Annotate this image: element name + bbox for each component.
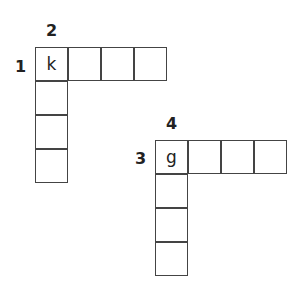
cell-4-down-2[interactable]: [155, 174, 188, 208]
clue-number-4-down: 4: [166, 114, 177, 133]
cell-3-across-3[interactable]: [221, 140, 254, 174]
cell-1-across-3[interactable]: [101, 47, 134, 81]
cell-1-across-1[interactable]: k: [35, 47, 68, 81]
cell-4-down-3[interactable]: [155, 208, 188, 242]
clue-number-3-across: 3: [135, 149, 146, 168]
cell-2-down-4[interactable]: [35, 149, 68, 183]
clue-number-1-across: 1: [15, 57, 26, 76]
cell-3-across-2[interactable]: [188, 140, 221, 174]
cell-3-across-1[interactable]: g: [155, 140, 188, 174]
cell-3-across-4[interactable]: [254, 140, 287, 174]
cell-4-down-4[interactable]: [155, 242, 188, 276]
cell-1-across-4[interactable]: [134, 47, 167, 81]
cell-1-across-2[interactable]: [68, 47, 101, 81]
clue-number-2-down: 2: [46, 21, 57, 40]
cell-2-down-2[interactable]: [35, 81, 68, 115]
cell-2-down-3[interactable]: [35, 115, 68, 149]
